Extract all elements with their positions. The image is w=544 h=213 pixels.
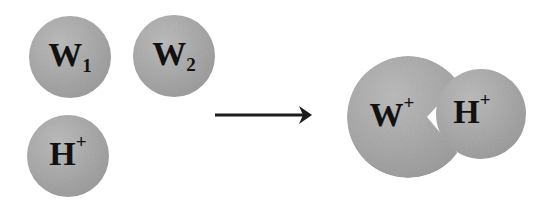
wp-main: W	[370, 96, 404, 133]
hp-superscript: +	[480, 89, 491, 110]
w2-subscript: 2	[186, 54, 196, 75]
w1-main: W	[48, 36, 82, 73]
reaction-diagram: W1 W2 H+	[0, 0, 544, 213]
tryptophan-1-sphere: W1	[29, 16, 111, 98]
proton-product-sphere: H+	[436, 69, 526, 159]
hp-main: H	[453, 93, 479, 130]
w1-subscript: 1	[82, 55, 92, 76]
w2-main: W	[152, 35, 186, 72]
diagram-canvas: W1 W2 H+	[0, 0, 544, 213]
proton-sphere: H+	[27, 115, 109, 197]
hr-superscript: +	[76, 131, 87, 152]
proton-product-circle	[436, 69, 526, 159]
hr-main: H	[49, 135, 75, 172]
tryptophan-2-sphere: W2	[133, 15, 215, 97]
wp-superscript: +	[404, 92, 415, 113]
